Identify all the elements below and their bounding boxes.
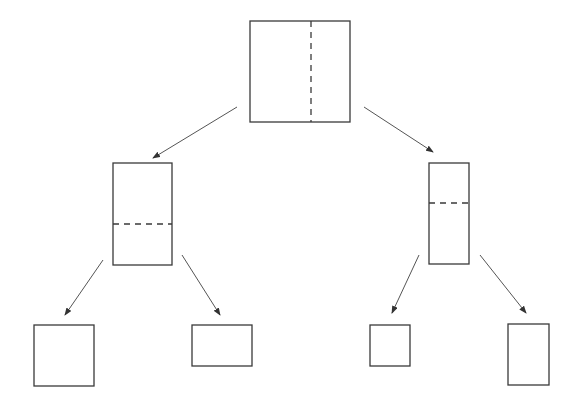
arrow-root-to-left <box>153 107 237 158</box>
rectangle-left-left <box>34 325 94 386</box>
node-right-left <box>370 325 410 366</box>
node-right-right <box>508 324 549 385</box>
arrow-left-to-left-left <box>65 260 103 315</box>
rectangle-root <box>250 21 350 122</box>
rectangle-right-right <box>508 324 549 385</box>
node-left <box>113 163 172 265</box>
rectangle-right <box>429 163 469 264</box>
node-right <box>429 163 469 264</box>
node-root <box>250 21 350 122</box>
arrow-root-to-right <box>364 107 433 152</box>
arrow-right-to-right-left <box>392 255 419 313</box>
edges-layer <box>65 107 526 315</box>
nodes-layer <box>34 21 549 386</box>
arrow-left-to-left-right <box>182 255 220 315</box>
rectangle-left-right <box>192 325 252 366</box>
partition-tree-diagram <box>0 0 579 413</box>
node-left-right <box>192 325 252 366</box>
arrow-right-to-right-right <box>480 255 526 313</box>
rectangle-left <box>113 163 172 265</box>
node-left-left <box>34 325 94 386</box>
rectangle-right-left <box>370 325 410 366</box>
